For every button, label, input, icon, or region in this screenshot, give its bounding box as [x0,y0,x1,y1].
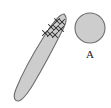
circle-shape-A [75,13,105,43]
label-A: A [86,48,94,60]
figure-container: A [0,0,111,108]
diagram-canvas: A [0,0,111,108]
